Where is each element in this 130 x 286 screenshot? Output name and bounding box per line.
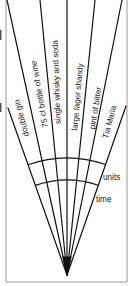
- drink-label: single whisky and soda: [51, 39, 63, 124]
- fan-ray: [67, 0, 122, 275]
- drink-label: pint of bitter: [88, 86, 104, 130]
- drinks-fan-diagram: double gin75 cl bottle of winesingle whi…: [0, 0, 130, 286]
- drink-labels: double gin75 cl bottle of winesingle whi…: [12, 39, 118, 139]
- drink-label: double gin: [12, 98, 31, 137]
- edge-mark-top: [0, 30, 2, 40]
- units-label: units: [103, 173, 120, 182]
- fan-ray: [8, 108, 67, 275]
- edge-mark-bottom: [0, 103, 2, 112]
- time-label: time: [96, 195, 112, 204]
